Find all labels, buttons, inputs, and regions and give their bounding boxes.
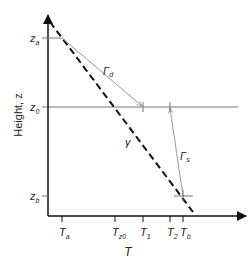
- z0-label: z0: [29, 101, 40, 115]
- dry-adiabat-label: Γd: [103, 65, 114, 78]
- zb-label: zb: [29, 190, 40, 204]
- lapse-rate-diagram: Height, z za z0 zb Ta Tz0 T1 T2 Tb T Γd …: [0, 0, 252, 269]
- tb-label: Tb: [180, 226, 191, 240]
- saturated-adiabat-label: Γs: [180, 150, 190, 163]
- y-axis-label: Height, z: [12, 93, 24, 136]
- x-axis-label: T: [124, 245, 133, 259]
- t2-label: T2: [167, 226, 178, 240]
- ta-label: Ta: [59, 226, 70, 240]
- environmental-lapse-label: γ: [125, 136, 132, 148]
- za-label: za: [29, 32, 40, 46]
- tz0-label: Tz0: [112, 226, 126, 240]
- dry-adiabat-line: [62, 38, 142, 106]
- t1-label: T1: [140, 226, 151, 240]
